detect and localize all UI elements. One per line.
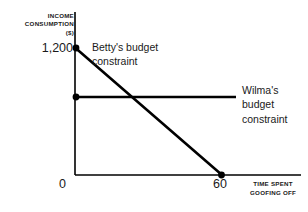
x-axis-tick-label-0: 0 — [59, 177, 66, 192]
bettys-intercept-marker — [73, 45, 80, 52]
wilmas-budget-constraint-label: Wilma'sbudgetconstraint — [242, 83, 288, 126]
wilmas-label-line-1: Wilma's — [242, 84, 278, 96]
wilmas-label-line-3: constraint — [242, 113, 288, 125]
budget-constraint-chart: INCOMECONSUMPTION($) 1,200 0 60 TIME SPE… — [0, 0, 308, 212]
y-axis-title-line-3: ($) — [66, 29, 74, 36]
bettys-label-line-2: constraint — [92, 55, 138, 67]
y-axis-title-line-1: INCOME — [48, 12, 74, 19]
y-axis-title: INCOMECONSUMPTION($) — [25, 12, 74, 37]
bettys-budget-constraint-label: Betty's budgetconstraint — [92, 40, 158, 69]
x-axis-tick-label-60: 60 — [213, 177, 227, 192]
bettys-label-line-1: Betty's budget — [92, 41, 158, 53]
y-axis-title-line-2: CONSUMPTION — [25, 20, 74, 27]
x-axis-title-line-1: TIME SPENT — [253, 180, 293, 187]
wilmas-label-line-2: budget — [242, 98, 274, 110]
x-axis-title: TIME SPENTGOOFING OFF — [250, 180, 296, 198]
x-axis-title-line-2: GOOFING OFF — [250, 189, 296, 196]
wilmas-intercept-marker — [73, 94, 80, 101]
y-axis-tick-label-1200: 1,200 — [42, 41, 73, 56]
